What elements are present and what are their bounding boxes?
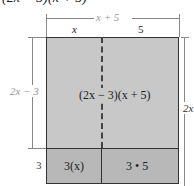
expression-title: (2x − 3)(x + 5) [2,0,87,6]
top-dimension-line-left [46,18,94,19]
top-dimension-label: x + 5 [96,11,119,23]
left-dimension-tick-bottom [28,148,46,149]
right-dimension-label: 2x [183,102,193,114]
top-dimension-tick-right [179,14,180,37]
top-dimension-line-right [132,18,179,19]
column-label-5: 5 [138,23,144,35]
bottom-height-label: 3 [36,159,42,171]
top-dimension-tick-left [46,14,47,37]
bottom-left-region-label: 3(x) [64,159,84,174]
main-region-label: (2x − 3)(x + 5) [78,88,152,103]
left-dimension-label: 2x − 3 [10,85,39,97]
column-label-x: x [72,23,77,35]
left-dimension-tick-top [28,37,46,38]
right-dimension-tick-top [181,37,189,38]
bottom-right-region-label: 3 • 5 [126,159,148,174]
bottom-divider [101,148,102,184]
